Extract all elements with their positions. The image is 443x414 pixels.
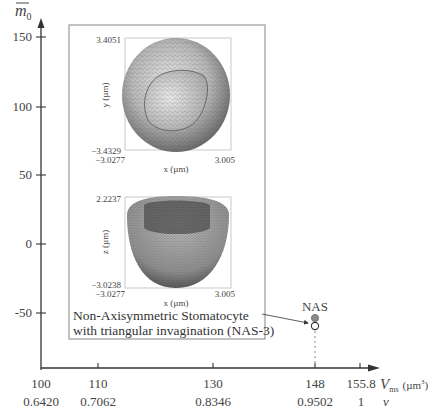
top-xmin: −3.0277 <box>95 155 125 165</box>
inset-caption-line2: with triangular invagination (NAS-3) <box>73 323 274 338</box>
annotation-arrow <box>262 314 308 323</box>
v-tick-0-9502: 0.9502 <box>297 394 333 409</box>
top-xmax: 3.005 <box>215 155 236 165</box>
x-tick-148: 148 <box>305 376 325 391</box>
chart: m0 150 100 50 0 -50 100 110 130 148 155.… <box>0 0 443 414</box>
top-ylabel: y (µm) <box>100 83 110 108</box>
top-ymax: 3.4051 <box>96 35 121 45</box>
nas-label: NAS <box>302 299 328 314</box>
y-tick-minus50: -50 <box>15 305 32 320</box>
y-tick-0: 0 <box>26 236 33 251</box>
inset-caption-line1: Non-Axisymmetric Stomatocyte <box>73 308 249 323</box>
x-tick-155-8: 155.8 <box>346 376 375 391</box>
side-ylabel: z (µm) <box>100 230 110 254</box>
v-tick-0-7062: 0.7062 <box>80 394 116 409</box>
x-tick-130: 130 <box>203 376 223 391</box>
y-tick-100: 100 <box>13 99 33 114</box>
y-axis: m0 150 100 50 0 -50 <box>13 2 47 370</box>
x-tick-100: 100 <box>31 376 51 391</box>
y-tick-150: 150 <box>13 29 33 44</box>
nas-open-marker <box>311 322 318 329</box>
side-xmax: 3.005 <box>215 289 236 299</box>
x-axis-secondary-label: v <box>383 394 389 409</box>
y-tick-50: 50 <box>19 167 32 182</box>
x-axis: 100 110 130 148 155.8 0.6420 0.7062 0.83… <box>23 363 428 409</box>
v-tick-0-6420: 0.6420 <box>23 394 59 409</box>
inset-panel: 3.4051 −3.4329 −3.0277 3.005 x (µm) y (µ… <box>69 25 274 339</box>
v-tick-0-8346: 0.8346 <box>195 394 231 409</box>
y-axis-label: m0 <box>15 2 32 22</box>
x-axis-arrow-icon <box>368 365 380 372</box>
nas-filled-marker <box>311 314 318 321</box>
x-axis-label: Vms(µm3) <box>380 376 429 394</box>
nas-data-point: NAS <box>302 299 328 366</box>
y-axis-arrow-icon <box>38 18 45 28</box>
top-xlabel: x (µm) <box>164 164 189 174</box>
v-tick-1: 1 <box>358 394 365 409</box>
x-tick-110: 110 <box>88 376 107 391</box>
side-xlabel: x (µm) <box>164 298 189 308</box>
side-xmin: −3.0277 <box>95 289 125 299</box>
side-zmax: 2.2237 <box>96 194 121 204</box>
